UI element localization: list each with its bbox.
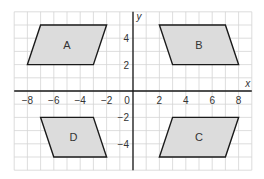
coordinate-grid: ABCD xy −8−6−4−20246842−2−4 [0, 0, 264, 179]
y-tick-label: 4 [123, 33, 129, 44]
parallelogram-c: C [159, 117, 238, 157]
parallelogram-d: D [41, 117, 107, 157]
x-tick-label: −8 [22, 95, 34, 106]
parallelogram-a: A [27, 25, 106, 65]
shape-label: A [63, 39, 71, 51]
shape-label: C [195, 131, 203, 143]
x-tick-label: 2 [157, 95, 163, 106]
y-axis-label: y [136, 11, 143, 22]
parallelogram-b: B [159, 25, 238, 65]
x-tick-label: 4 [183, 95, 189, 106]
y-tick-label: −4 [118, 139, 130, 150]
x-tick-label: −4 [74, 95, 86, 106]
x-tick-label: 6 [209, 95, 215, 106]
x-tick-label: 0 [124, 95, 130, 106]
y-tick-label: −2 [118, 112, 130, 123]
x-tick-label: 8 [236, 95, 242, 106]
x-tick-label: −6 [48, 95, 60, 106]
shape-label: D [70, 131, 78, 143]
shape-label: B [195, 39, 202, 51]
x-tick-label: −2 [101, 95, 113, 106]
x-axis-label: x [244, 78, 251, 89]
y-tick-label: 2 [123, 60, 129, 71]
